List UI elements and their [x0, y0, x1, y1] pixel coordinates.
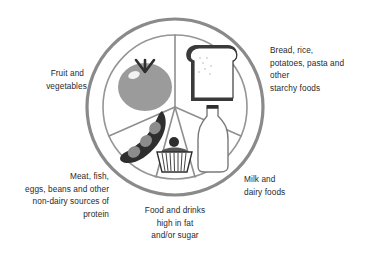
label-line: Milk and: [244, 173, 285, 186]
label-line: and/or sugar: [134, 229, 217, 242]
label-line: non-dairy sources of: [19, 195, 109, 208]
label-dairy: Milk and dairy foods: [244, 173, 285, 198]
food-plate-diagram: Fruit and vegetables Bread, rice, potato…: [0, 0, 371, 255]
label-fruit-vegetables: Fruit and vegetables: [46, 67, 84, 92]
label-fat-sugar: Food and drinks high in fat and/or sugar: [134, 204, 217, 242]
label-protein: Meat, fish, eggs, beans and other non-da…: [19, 170, 109, 220]
label-line: Meat, fish,: [19, 170, 109, 183]
tomato-icon: [118, 60, 172, 111]
label-line: Fruit and: [46, 67, 84, 80]
bread-slice-icon: [186, 45, 237, 101]
label-starchy-foods: Bread, rice, potatoes, pasta and other s…: [270, 44, 344, 94]
label-line: starchy foods: [270, 82, 344, 95]
cupcake-icon: [157, 137, 192, 172]
label-line: protein: [19, 208, 109, 221]
label-line: dairy foods: [244, 186, 285, 199]
label-line: Food and drinks: [134, 204, 217, 217]
label-line: high in fat: [134, 217, 217, 230]
label-line: vegetables: [46, 80, 84, 93]
label-line: potatoes, pasta and: [270, 57, 344, 70]
label-line: Bread, rice,: [270, 44, 344, 57]
milk-bottle-icon: [198, 105, 228, 172]
label-line: eggs, beans and other: [19, 183, 109, 196]
label-line: other: [270, 69, 344, 82]
